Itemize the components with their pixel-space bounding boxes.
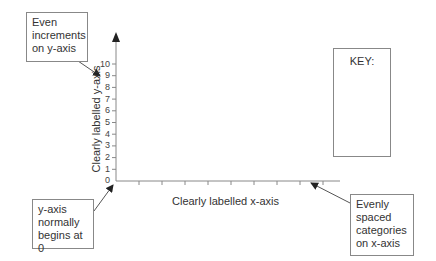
y-axis-ticks (112, 64, 116, 169)
y-axis-label: Clearly labelled y-axis (90, 59, 102, 179)
callout-evenly-spaced: Evenly spaced categories on x-axis (350, 194, 414, 256)
y-axis-arrowhead-icon (112, 32, 120, 42)
arrow-evenly-spaced (311, 183, 352, 204)
callout-starts-at-zero: y-axis normally begins at 0 (32, 199, 94, 249)
arrow-starts-at-zero (94, 185, 113, 211)
x-axis-ticks (139, 181, 323, 185)
key-box: KEY: (333, 48, 391, 157)
callout-even-increments: Even increments on y-axis (26, 12, 88, 62)
x-axis-label: Clearly labelled x-axis (172, 195, 279, 207)
key-title: KEY: (334, 55, 390, 67)
